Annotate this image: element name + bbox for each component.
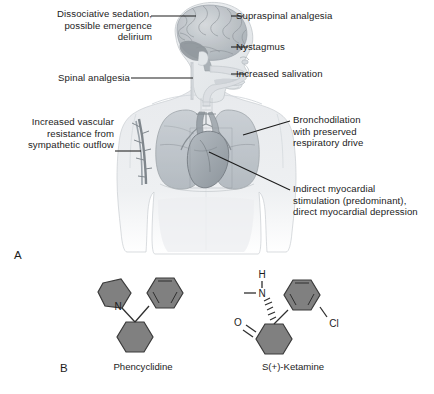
caption-ketamine: S(+)-Ketamine (228, 361, 358, 372)
chlorine-atom-label: Cl (329, 318, 338, 329)
structure-phencyclidine: N (98, 278, 183, 352)
chemical-structures: N (0, 0, 434, 394)
c-cl-bond (320, 307, 327, 317)
phenyl-ring (147, 278, 183, 308)
stereo-hashed-bond (264, 298, 276, 320)
ketamine-nitrogen-atom-label: N (258, 288, 265, 299)
nitrogen-atom-label: N (114, 301, 121, 312)
cyclohexanone-ring (256, 324, 292, 354)
figure-container: Dissociative sedation, possible emergenc… (0, 0, 434, 394)
panel-letter-b: B (60, 362, 68, 374)
carbonyl-double-bond (243, 325, 256, 337)
chlorophenyl-ring (284, 280, 320, 310)
structure-ketamine: H N O Cl (234, 269, 339, 354)
cyclohexyl-ring (117, 322, 153, 352)
caption-phencyclidine: Phencyclidine (83, 361, 203, 372)
hydrogen-atom-label: H (258, 269, 265, 280)
pcp-bonds (122, 306, 149, 322)
oxygen-atom-label: O (234, 317, 242, 328)
ketamine-c-aryl-bond (274, 310, 288, 324)
